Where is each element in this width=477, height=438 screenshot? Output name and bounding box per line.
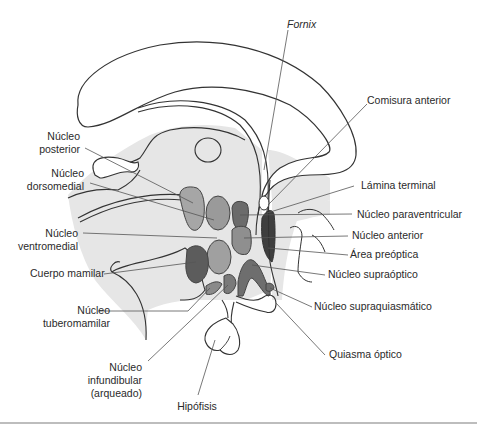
label-nucleo-anterior: Núcleo anterior <box>352 229 423 242</box>
label-nucleo-ventromedial: Núcleo ventromedial <box>10 227 78 253</box>
label-hipofisis: Hipófisis <box>172 400 222 413</box>
suprachiasmatic-nucleus <box>266 283 274 291</box>
leader-hipofisis <box>198 340 215 395</box>
nucleus-anterior <box>232 226 251 254</box>
bottom-divider <box>0 422 477 424</box>
label-nucleo-posterior: Núcleo posterior <box>28 130 80 156</box>
frontal-sulcus-3 <box>312 235 325 252</box>
label-fornix: Fornix <box>287 18 316 31</box>
mammillary-body <box>186 246 209 283</box>
interthalamic-adhesion <box>195 138 221 162</box>
nucleus-ventromedial <box>207 240 231 274</box>
label-nucleo-tuberomamilar: Núcleo tuberomamilar <box>30 304 110 330</box>
label-lamina-terminal: Lámina terminal <box>361 179 436 192</box>
label-nucleo-infundibular: Núcleo infundibular (arqueado) <box>80 361 142 400</box>
label-nucleo-dorsomedial: Núcleo dorsomedial <box>18 167 84 193</box>
label-nucleo-supraquiasmatico: Núcleo supraquiasmático <box>314 300 432 313</box>
label-comisura-anterior: Comisura anterior <box>367 94 450 107</box>
nucleus-dorsomedial <box>206 196 230 230</box>
label-nucleo-supraoptico: Núcleo supraóptico <box>328 268 418 281</box>
label-nucleo-paraventricular: Núcleo paraventricular <box>357 208 462 221</box>
anterior-commissure <box>259 196 269 210</box>
label-quiasma-optico: Quiasma óptico <box>329 348 402 361</box>
label-cuerpo-mamilar: Cuerpo mamilar <box>30 267 105 280</box>
optic-chiasm <box>236 295 276 312</box>
frontal-sulcus-2 <box>290 226 312 282</box>
label-area-preoptica: Área preóptica <box>350 248 418 261</box>
pituitary-gland <box>205 318 240 355</box>
